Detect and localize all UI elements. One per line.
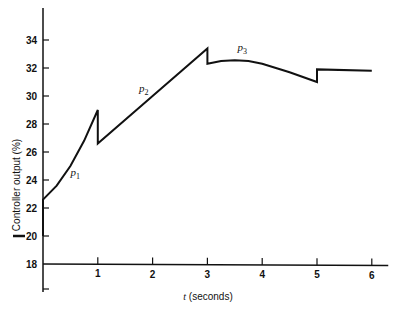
- y-tick-label: 24: [26, 175, 38, 186]
- x-tick-label: 2: [150, 269, 156, 280]
- curve-label-p2: p2: [138, 82, 149, 97]
- x-tick-label: 4: [259, 269, 265, 280]
- line-chart: 343230282624222018123456 p1p2p3 Controll…: [0, 0, 397, 310]
- x-tick-label: 1: [95, 268, 101, 279]
- y-tick-label: 20: [26, 231, 38, 242]
- controller-output-curve: [43, 48, 372, 236]
- y-tick-label: 18: [26, 259, 38, 270]
- y-tick-label: 22: [26, 203, 38, 214]
- y-tick-label: 28: [26, 119, 38, 130]
- y-tick-label: 26: [26, 147, 38, 158]
- axes: [43, 8, 388, 292]
- curve-label-p1: p1: [69, 166, 80, 181]
- ticks: 343230282624222018123456: [13, 35, 375, 281]
- x-axis-line: [43, 264, 388, 266]
- y-axis-title: Controller output (%): [11, 139, 22, 231]
- x-tick-label: 5: [314, 269, 320, 280]
- y-tick-label: 30: [26, 91, 38, 102]
- x-tick-label: 6: [369, 270, 375, 281]
- y-tick-label: 32: [26, 63, 38, 74]
- x-axis-title: t (seconds): [183, 291, 232, 302]
- curve-label-p3: p3: [237, 41, 248, 56]
- x-tick-label: 3: [205, 269, 211, 280]
- y-tick-label: 34: [26, 35, 38, 46]
